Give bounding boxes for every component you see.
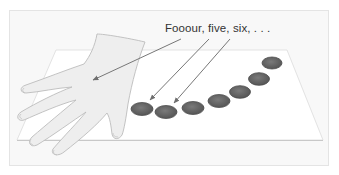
coin-5 — [230, 86, 251, 99]
coin-1 — [131, 103, 153, 116]
coin-3 — [182, 102, 204, 115]
coin-7 — [262, 57, 282, 69]
coin-2 — [155, 106, 177, 119]
counting-illustration: Fooour, five, six, . . . — [0, 0, 339, 175]
coin-4 — [208, 95, 230, 108]
coin-6 — [249, 73, 270, 86]
counting-caption: Fooour, five, six, . . . — [165, 22, 270, 34]
